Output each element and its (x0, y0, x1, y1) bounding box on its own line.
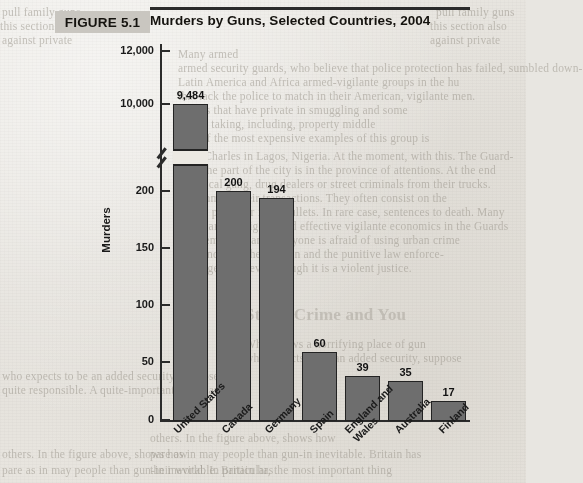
y-tick-12000 (161, 50, 170, 52)
bar-value-germany: 194 (254, 183, 299, 195)
y-tick-200 (161, 190, 170, 192)
bar-united-states-break-gap (173, 150, 208, 165)
bar-value-canada: 200 (211, 176, 256, 188)
y-tick-label-10000: 10,000 (96, 97, 154, 109)
y-tick-10000 (161, 103, 170, 105)
y-tick-label-50: 50 (96, 355, 154, 367)
y-tick-100 (161, 304, 170, 306)
y-tick-label-0: 0 (96, 413, 154, 425)
bar-united-states-lower[interactable] (173, 165, 208, 421)
y-tick-50 (161, 361, 170, 363)
y-tick-150 (161, 247, 170, 249)
bar-germany[interactable] (259, 198, 294, 421)
y-axis-line (160, 44, 162, 422)
bar-value-spain: 60 (297, 337, 342, 349)
bar-value-england-and-wales: 39 (340, 361, 385, 373)
bar-value-australia: 35 (383, 366, 428, 378)
y-axis-title-label: Murders (100, 207, 112, 252)
y-tick-label-12000: 12,000 (96, 44, 154, 56)
y-tick-0 (161, 419, 170, 421)
y-tick-label-100: 100 (96, 298, 154, 310)
bar-value-united-states: 9,484 (168, 89, 213, 101)
y-axis-title: Murders (95, 195, 117, 265)
bar-value-finland: 17 (426, 386, 471, 398)
bar-united-states-upper[interactable] (173, 104, 208, 150)
